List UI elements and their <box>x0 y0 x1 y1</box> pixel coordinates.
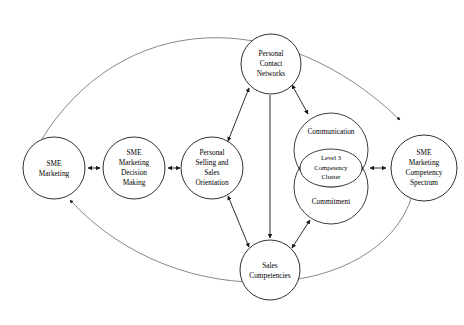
node-competency-spectrum-label-line-1: Marketing <box>409 158 440 167</box>
node-sales-competencies-label-line-1: Competencies <box>249 271 290 280</box>
node-sme-marketing-decision-making-label-line-0: SME <box>126 148 142 157</box>
node-sme-marketing-decision-making[interactable]: SME Marketing Decision Making <box>103 137 165 199</box>
node-personal-selling-label-line-3: Orientation <box>195 178 229 187</box>
node-personal-selling-label-line-1: Selling and <box>195 158 228 167</box>
node-sme-marketing-decision-making-label-line-1: Marketing <box>119 158 150 167</box>
node-personal-selling-label-line-0: Personal <box>199 148 224 157</box>
node-sme-marketing-label-line-1: Marketing <box>39 169 70 178</box>
node-sales-competencies-label-line-0: Sales <box>262 261 278 270</box>
cluster-inner-label-line-2: Cluster <box>321 173 341 180</box>
connector-personal-selling-to-sales-competencies <box>228 196 249 247</box>
node-competency-spectrum-label-line-3: Spectrum <box>410 178 438 187</box>
node-sme-marketing-decision-making-label-line-2: Decision <box>121 168 147 177</box>
node-competency-spectrum-label-line-2: Competency <box>406 168 443 177</box>
connector-commitment-to-sales-competencies <box>292 220 310 248</box>
communication-label: Communication <box>307 127 354 136</box>
node-personal-contact-networks-label-line-0: Personal <box>258 49 283 58</box>
level-3-competency-cluster[interactable]: Communication Level 3 Competency Cluster… <box>294 113 368 224</box>
node-personal-contact-networks-label-line-1: Contact <box>260 59 283 68</box>
node-sales-competencies[interactable]: Sales Competencies <box>240 240 300 300</box>
node-sme-marketing-decision-making-label-line-3: Making <box>123 178 146 187</box>
node-sme-marketing-competency-spectrum[interactable]: SME Marketing Competency Spectrum <box>391 135 457 201</box>
commitment-label: Commitment <box>312 197 351 206</box>
node-sme-marketing-label-line-0: SME <box>46 159 62 168</box>
diagram-svg: Communication Level 3 Competency Cluster… <box>0 0 464 325</box>
cluster-inner-label-line-0: Level 3 <box>321 154 342 161</box>
connector-personal-selling-to-personal-contact-networks <box>228 88 249 141</box>
node-personal-contact-networks-label-line-2: Networks <box>257 69 286 78</box>
node-personal-selling-label-line-2: Sales <box>204 168 220 177</box>
cluster-inner-label-line-1: Competency <box>314 164 348 171</box>
connector-personal-contact-networks-to-communication <box>292 85 308 114</box>
diagram-canvas: Communication Level 3 Competency Cluster… <box>0 0 464 325</box>
node-personal-selling-and-sales-orientation[interactable]: Personal Selling and Sales Orientation <box>181 137 243 199</box>
node-competency-spectrum-label-line-0: SME <box>416 148 432 157</box>
node-sme-marketing[interactable]: SME Marketing <box>23 137 85 199</box>
node-personal-contact-networks[interactable]: Personal Contact Networks <box>241 34 301 94</box>
